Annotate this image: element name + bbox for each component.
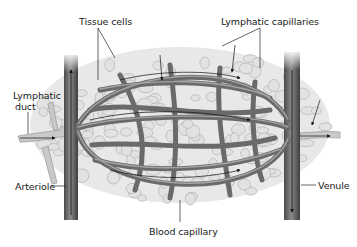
label-lymphatic-duct-line2: duct [15, 101, 36, 112]
tissue-cell [238, 179, 251, 190]
tissue-cell [131, 151, 141, 158]
tissue-cell [104, 129, 118, 137]
label-venule: Venule [318, 180, 350, 191]
tissue-cell [120, 128, 132, 136]
tissue-cell [48, 144, 60, 151]
label-blood-capillary: Blood capillary [149, 226, 218, 237]
tissue-cell [319, 123, 332, 131]
leader-lymph-cap-1 [222, 28, 260, 46]
tissue-cell [253, 57, 264, 67]
tissue-cell [200, 57, 210, 69]
leader-tissue-cells-2 [98, 28, 115, 58]
capillary-bed-diagram: Tissue cells Lymphatic capillaries Lymph… [0, 0, 357, 247]
label-lymphatic-duct-line1: Lymphatic [13, 90, 61, 101]
tissue-cell [241, 149, 250, 158]
tissue-cell [230, 133, 239, 144]
label-lymphatic-capillaries: Lymphatic capillaries [221, 16, 319, 27]
tissue-cell [153, 61, 163, 70]
tissue-cell [183, 120, 194, 129]
tissue-cell [138, 195, 146, 201]
tissue-cell [206, 92, 217, 101]
tissue-cell [239, 63, 252, 74]
lymphatic-capillary-outlet [300, 132, 340, 139]
arteriole [64, 52, 78, 220]
tissue-cell [39, 108, 48, 117]
tissue-cell [82, 131, 93, 138]
venule [284, 50, 300, 220]
diagram-illustration [0, 0, 357, 247]
tissue-cell [298, 140, 314, 147]
label-arteriole: Arteriole [15, 181, 55, 192]
tissue-cell [269, 80, 280, 92]
label-tissue-cells: Tissue cells [79, 16, 132, 27]
tissue-cell [105, 59, 115, 72]
tissue-cell [185, 193, 195, 205]
tissue-cell [191, 95, 200, 101]
